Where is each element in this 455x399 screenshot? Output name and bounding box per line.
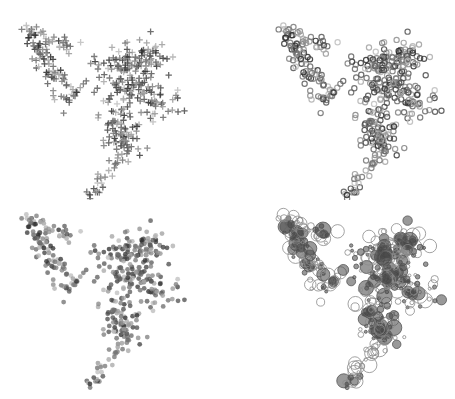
plus-marker	[144, 109, 150, 115]
plus-marker	[134, 135, 140, 141]
variable-circle-marker	[354, 264, 359, 269]
hollow-circle-marker	[432, 109, 437, 114]
filled-dot-marker	[110, 234, 115, 239]
filled-dot-marker	[139, 272, 144, 277]
filled-dot-marker	[160, 293, 165, 298]
filled-dot-marker	[121, 285, 126, 290]
hollow-circle-marker	[358, 143, 363, 148]
plus-marker	[91, 53, 97, 59]
variable-circle-marker	[351, 249, 354, 252]
variable-circle-marker	[403, 336, 406, 339]
filled-dot-marker	[54, 265, 59, 270]
filled-dot-marker	[175, 277, 180, 282]
filled-dot-marker	[161, 245, 166, 250]
filled-dot-marker	[133, 258, 138, 263]
variable-circle-marker	[384, 302, 391, 309]
hollow-circle-marker	[427, 54, 432, 59]
filled-dot-marker	[101, 250, 106, 255]
filled-dot-marker	[96, 251, 101, 256]
plus-marker	[24, 40, 30, 46]
filled-dot-marker	[121, 307, 126, 312]
filled-dot-marker	[98, 365, 103, 370]
hollow-circle-marker	[358, 138, 363, 143]
plus-marker	[175, 109, 181, 115]
filled-dot-marker	[144, 265, 149, 270]
filled-dot-marker	[122, 245, 127, 250]
hollow-circle-marker	[418, 115, 423, 120]
filled-dot-marker	[134, 270, 139, 275]
scatter-plot-grid	[0, 0, 455, 399]
filled-dot-marker	[144, 229, 149, 234]
variable-circle-marker	[358, 313, 371, 326]
filled-dot-marker	[149, 279, 154, 284]
filled-dot-marker	[38, 220, 43, 225]
variable-circle-marker	[377, 251, 392, 266]
filled-dot-marker	[62, 266, 67, 271]
filled-dot-marker	[119, 341, 124, 346]
filled-dot-marker	[52, 286, 57, 291]
filled-dot-marker	[174, 282, 179, 287]
plot-area	[0, 0, 227, 200]
variable-circle-marker	[393, 336, 397, 340]
plus-marker	[109, 44, 115, 50]
filled-dot-marker	[107, 286, 112, 291]
plus-marker	[116, 48, 122, 54]
variable-circle-marker	[395, 299, 401, 305]
filled-dot-marker	[84, 268, 89, 273]
filled-dot-marker	[114, 336, 119, 341]
variable-circle-marker	[427, 297, 431, 301]
plus-marker	[165, 108, 171, 114]
hollow-circle-marker	[308, 64, 313, 69]
variable-circle-marker	[351, 303, 359, 311]
filled-dot-marker	[24, 212, 29, 217]
filled-dot-marker	[135, 313, 140, 318]
filled-dot-marker	[58, 257, 63, 262]
filled-dot-marker	[128, 303, 133, 308]
filled-dot-marker	[107, 347, 112, 352]
filled-dot-marker	[95, 275, 100, 280]
filled-dot-marker	[144, 253, 149, 258]
variable-circle-marker	[302, 270, 307, 275]
variable-circle-marker	[324, 241, 327, 244]
filled-dot-marker	[106, 255, 111, 260]
variable-circle-marker	[292, 255, 295, 258]
filled-dot-marker	[106, 329, 111, 334]
variable-circle-marker	[345, 250, 351, 256]
plus-marker	[114, 101, 120, 107]
variable-circle-marker	[310, 287, 313, 290]
variable-circle-marker	[302, 260, 305, 263]
plus-marker	[125, 159, 131, 165]
hollow-circle-marker	[402, 146, 407, 151]
filled-dot-marker	[143, 258, 148, 263]
filled-dot-marker	[56, 227, 61, 232]
filled-dot-marker	[156, 250, 161, 255]
plus-marker	[50, 87, 56, 93]
variable-circle-marker	[350, 244, 353, 247]
filled-dot-marker	[136, 276, 141, 281]
plus-marker	[137, 152, 143, 158]
hollow-circle-marker	[432, 88, 437, 93]
plus-marker	[94, 85, 100, 91]
hollow-circle-marker	[282, 41, 287, 46]
filled-dot-marker	[19, 216, 24, 221]
filled-dot-marker	[50, 264, 55, 269]
hollow-circle-marker	[367, 173, 372, 178]
filled-dot-marker	[176, 298, 181, 303]
filled-dot-marker	[47, 251, 52, 256]
filled-dot-marker	[107, 247, 112, 252]
filled-dot-marker	[101, 268, 106, 273]
filled-dot-marker	[51, 253, 56, 258]
variable-circle-marker	[352, 255, 357, 260]
plus-marker	[61, 34, 67, 40]
variable-circle-marker	[391, 224, 402, 235]
filled-dot-marker	[144, 247, 149, 252]
plus-marker	[100, 184, 106, 190]
hollow-circle-marker	[373, 49, 378, 54]
plus-marker	[106, 167, 112, 173]
filled-dot-marker	[114, 246, 119, 251]
plus-marker	[95, 112, 101, 118]
filled-dot-marker	[139, 238, 144, 243]
variable-circle-marker	[293, 236, 296, 239]
variable-circle-marker	[280, 221, 292, 233]
hollow-circle-marker	[358, 79, 363, 84]
